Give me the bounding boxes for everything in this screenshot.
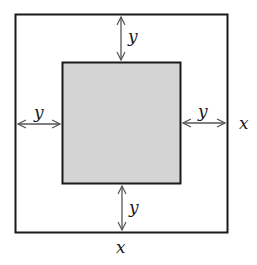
bottom-side-label: x	[116, 237, 126, 257]
bottom-gap-label: y	[128, 197, 139, 217]
top-gap-label: y	[127, 26, 138, 46]
inner-square	[63, 63, 181, 184]
right-side-label: x	[239, 113, 249, 133]
left-gap-label: y	[33, 102, 44, 122]
square-border-diagram: y y y y x x	[0, 0, 257, 265]
right-gap-label: y	[197, 101, 208, 121]
